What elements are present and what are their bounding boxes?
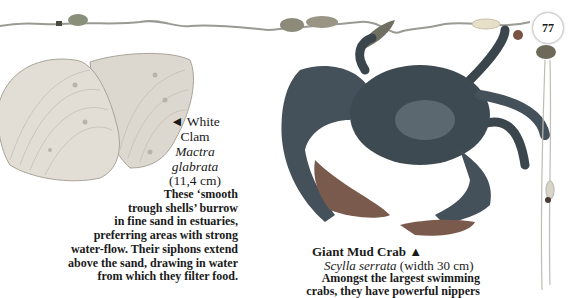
page-number: 77 xyxy=(532,12,564,44)
giant-mud-crab-illustration xyxy=(282,30,545,236)
clam-desc-line: from which they filter food. xyxy=(30,270,238,284)
clam-desc-line: above the sand, drawing in water xyxy=(30,257,238,271)
giant-mud-crab-title: Giant Mud Crab ▲ xyxy=(312,244,422,259)
white-clam-latin-name: Mactra glabrata xyxy=(160,144,230,174)
strandline-decoration xyxy=(0,14,556,59)
clam-latin-line2: glabrata xyxy=(160,159,230,174)
clam-desc-line: trough shells’ burrow xyxy=(30,202,238,216)
clam-title-line2: Clam xyxy=(160,129,230,144)
white-clam-size: (11,4 cm) xyxy=(160,173,230,188)
clam-desc-line: in fine sand in estuaries, xyxy=(30,215,238,229)
seaweed-strand-decoration xyxy=(541,60,554,290)
white-clam-title: ◄ White Clam xyxy=(160,114,230,144)
left-arrow-icon: ◄ xyxy=(170,114,183,129)
crab-desc-line: crabs, they have powerful nippers xyxy=(300,285,480,298)
clam-title-line1: White xyxy=(187,114,220,129)
giant-mud-crab-description: Amongst the largest swimming crabs, they… xyxy=(300,272,480,298)
clam-latin-line1: Mactra xyxy=(160,144,230,159)
clam-desc-line: preferring areas with strong xyxy=(30,229,238,243)
crab-title-text: Giant Mud Crab xyxy=(312,244,406,259)
white-clam-description: These ‘smooth trough shells’ burrow in f… xyxy=(30,188,238,284)
clam-desc-line: These ‘smooth xyxy=(30,188,238,202)
page-number-text: 77 xyxy=(542,21,554,36)
up-arrow-icon: ▲ xyxy=(409,244,422,259)
clam-desc-line: water-flow. Their siphons extend xyxy=(30,243,238,257)
